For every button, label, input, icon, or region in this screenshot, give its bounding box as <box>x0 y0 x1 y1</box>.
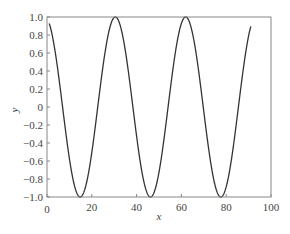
x-tick-label: 20 <box>86 201 98 213</box>
x-tick-label: 100 <box>263 201 280 213</box>
y-tick-label: −0.8 <box>23 173 43 185</box>
series-line <box>49 17 251 197</box>
y-tick-label: 1.0 <box>29 11 43 23</box>
y-tick-label: 0.8 <box>29 29 43 41</box>
x-axis-label: x <box>156 210 162 222</box>
y-tick-label: 0 <box>38 101 44 113</box>
y-tick-label: 0.2 <box>29 83 43 95</box>
x-tick-label: 0 <box>44 203 50 215</box>
y-axis-ticks: 1.00.80.60.40.20−0.2−0.4−0.6−0.8−1.0 <box>23 11 50 203</box>
x-tick-label: 60 <box>176 201 188 213</box>
y-tick-label: −0.2 <box>23 119 43 131</box>
x-tick-label: 80 <box>221 201 233 213</box>
y-tick-label: −0.4 <box>23 137 43 149</box>
y-tick-label: −1.0 <box>23 191 43 203</box>
y-tick-label: −0.6 <box>23 155 43 167</box>
line-chart: 020406080100 1.00.80.60.40.20−0.2−0.4−0.… <box>0 0 290 234</box>
y-axis-label: y <box>8 107 20 113</box>
y-tick-label: 0.6 <box>29 47 43 59</box>
y-tick-label: 0.4 <box>29 65 43 77</box>
x-tick-label: 40 <box>131 201 143 213</box>
